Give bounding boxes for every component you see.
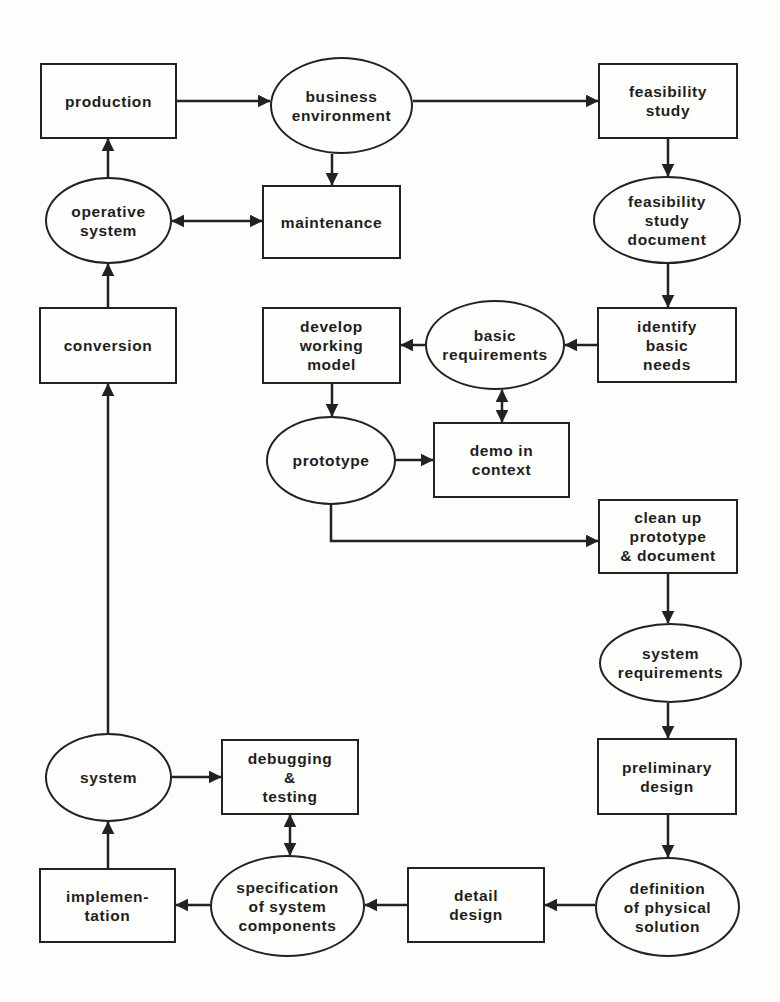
node-label: implemen- tation (66, 887, 149, 925)
node-label: debugging & testing (248, 749, 333, 806)
node-system-requirements: system requirements (599, 623, 742, 703)
node-label: preliminary design (622, 758, 712, 796)
node-specification-of-system-components: specification of system components (210, 855, 365, 957)
node-feasibility-study-document: feasibility study document (593, 176, 741, 264)
node-feasibility-study: feasibility study (598, 63, 738, 139)
node-prototype: prototype (266, 416, 396, 505)
node-label: feasibility study document (628, 192, 707, 249)
arrow-prototype-to-clean-up-prototype (331, 505, 598, 541)
node-conversion: conversion (39, 307, 177, 384)
node-label: business environment (292, 87, 392, 125)
node-label: system requirements (618, 644, 723, 682)
node-label: feasibility study (629, 82, 707, 120)
node-demo-in-context: demo in context (433, 422, 570, 498)
node-implementation: implemen- tation (39, 868, 176, 943)
node-business-environment: business environment (270, 57, 413, 154)
node-definition-of-physical-solution: definition of physical solution (595, 857, 740, 957)
node-label: develop working model (300, 317, 364, 374)
node-identify-basic-needs: identify basic needs (597, 307, 737, 383)
node-production: production (40, 63, 177, 139)
node-basic-requirements: basic requirements (425, 300, 565, 390)
node-label: operative system (71, 202, 145, 240)
node-label: identify basic needs (637, 317, 697, 374)
node-label: basic requirements (442, 326, 547, 364)
node-label: demo in context (470, 441, 534, 479)
node-detail-design: detail design (407, 867, 545, 943)
node-label: conversion (64, 336, 153, 355)
node-label: prototype (293, 451, 370, 470)
node-label: definition of physical solution (624, 879, 712, 936)
node-clean-up-prototype: clean up prototype & document (598, 499, 738, 574)
node-operative-system: operative system (45, 177, 172, 264)
node-label: maintenance (281, 213, 382, 232)
node-label: production (65, 92, 152, 111)
node-system: system (45, 733, 172, 822)
node-develop-working-model: develop working model (262, 307, 401, 384)
node-preliminary-design: preliminary design (597, 738, 737, 815)
node-maintenance: maintenance (262, 185, 401, 259)
system-development-flowchart: productionbusiness environmentfeasibilit… (0, 0, 780, 1002)
node-label: system (80, 768, 137, 787)
node-label: clean up prototype & document (620, 508, 716, 565)
node-debugging-testing: debugging & testing (221, 739, 359, 815)
node-label: specification of system components (236, 878, 339, 935)
node-label: detail design (449, 886, 503, 924)
